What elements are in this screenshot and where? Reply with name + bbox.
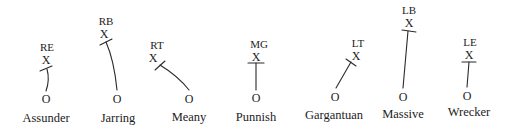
blocker-o-marker: O — [399, 90, 408, 104]
matchup-rt: RT X O Meany — [149, 39, 207, 124]
block-line — [160, 65, 189, 90]
position-label: LE — [463, 36, 477, 48]
block-line — [467, 62, 469, 87]
player-name: Jarring — [101, 111, 136, 125]
defender-x-marker: X — [252, 50, 261, 64]
defender-x-marker: X — [100, 27, 109, 41]
player-name: Wrecker — [448, 105, 491, 119]
blocker-o-marker: O — [113, 92, 122, 106]
defender-x-marker: X — [42, 53, 51, 67]
matchup-lb: LB X O Massive — [382, 4, 424, 121]
block-line — [403, 31, 408, 88]
position-label: RE — [40, 41, 54, 53]
diagram-canvas: RE X O Assunder RB X O Jarring RT X O Me… — [0, 0, 514, 129]
matchup-re: RE X O Assunder — [22, 41, 70, 125]
blocker-o-marker: O — [42, 92, 51, 106]
blocking-diagram: RE X O Assunder RB X O Jarring RT X O Me… — [0, 0, 514, 129]
matchup-rb: RB X O Jarring — [99, 15, 136, 125]
position-label: LT — [352, 37, 365, 49]
block-bar — [402, 30, 416, 32]
defender-x-marker: X — [352, 49, 361, 63]
player-name: Assunder — [22, 111, 70, 125]
blocker-o-marker: O — [252, 91, 261, 105]
position-label: MG — [250, 38, 268, 50]
position-label: LB — [402, 4, 416, 16]
blocker-o-marker: O — [463, 89, 472, 103]
player-name: Gargantuan — [305, 108, 364, 122]
defender-x-marker: X — [465, 48, 474, 62]
block-line — [106, 42, 117, 90]
matchup-lt: LT X O Gargantuan — [305, 37, 365, 122]
matchup-le: LE X O Wrecker — [448, 36, 491, 119]
player-name: Punnish — [236, 110, 277, 124]
defender-x-marker: X — [405, 16, 414, 30]
player-name: Massive — [382, 107, 424, 121]
position-label: RB — [99, 15, 114, 27]
blocker-o-marker: O — [185, 92, 194, 106]
player-name: Meany — [172, 110, 207, 124]
block-line — [46, 69, 48, 91]
defender-x-marker: X — [149, 51, 158, 65]
block-line — [336, 62, 351, 88]
matchup-mg: MG X O Punnish — [236, 38, 277, 124]
position-label: RT — [150, 39, 164, 51]
blocker-o-marker: O — [331, 90, 340, 104]
